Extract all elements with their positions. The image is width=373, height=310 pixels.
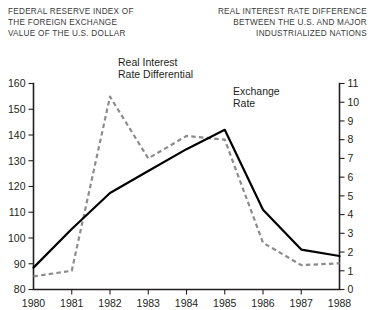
- x-axis-tick-label: 1986: [251, 297, 275, 309]
- x-axis-tick-label: 1981: [60, 297, 84, 309]
- x-axis-tick-label: 1983: [137, 297, 161, 309]
- y-axis-left-tick-label: 140: [8, 129, 26, 141]
- y-axis-right-tick-label: 11: [348, 77, 359, 89]
- y-axis-left-tick-label: 90: [14, 258, 26, 270]
- x-axis-ticks: 198019811982198319841985198619871988: [22, 290, 352, 309]
- y-axis-left-tick-label: 160: [8, 77, 26, 89]
- y-axis-right-ticks: 01234567891011: [340, 77, 360, 295]
- annotation-exchange-line-2: Rate: [233, 97, 255, 109]
- x-axis-tick-label: 1985: [213, 297, 237, 309]
- y-axis-right-tick-label: 9: [348, 115, 354, 127]
- x-axis-tick-label: 1984: [175, 297, 199, 309]
- y-axis-left-tick-label: 110: [9, 206, 26, 218]
- y-axis-left-tick-label: 120: [8, 180, 26, 192]
- y-axis-right-tick-label: 7: [348, 152, 354, 164]
- x-axis-tick-label: 1987: [290, 297, 314, 309]
- y-axis-left-tick-label: 100: [8, 232, 26, 244]
- y-axis-right-tick-label: 0: [348, 283, 354, 295]
- y-axis-right-tick-label: 6: [348, 171, 354, 183]
- x-axis-tick-label: 1982: [98, 297, 122, 309]
- y-axis-right-tick-label: 8: [348, 133, 354, 145]
- annotation-differential-line-2: Rate Differential: [118, 68, 193, 80]
- annotation-exchange-line-1: Exchange: [233, 85, 280, 97]
- y-axis-right-tick-label: 3: [348, 227, 354, 239]
- y-axis-right-tick-label: 10: [348, 96, 360, 108]
- chart-plot-area: 8090100110120130140150160 01234567891011…: [0, 0, 373, 310]
- y-axis-right-tick-label: 1: [348, 265, 354, 277]
- chart-figure: FEDERAL RESERVE INDEX OF THE FOREIGN EXC…: [0, 0, 373, 310]
- y-axis-right-tick-label: 5: [348, 190, 354, 202]
- axis-frame: [34, 84, 340, 290]
- series-line-exchange-rate: [34, 130, 340, 268]
- annotation-differential-line-1: Real Interest: [118, 56, 178, 68]
- y-axis-left-ticks: 8090100110120130140150160: [8, 77, 34, 295]
- y-axis-left-tick-label: 80: [14, 283, 26, 295]
- annotation-real-interest-rate-differential: Real Interest Rate Differential: [118, 56, 193, 80]
- annotation-exchange-rate: Exchange Rate: [233, 85, 280, 109]
- y-axis-right-tick-label: 2: [348, 246, 354, 258]
- y-axis-left-tick-label: 150: [8, 103, 26, 115]
- series-line-real-interest-rate-differential: [34, 97, 340, 277]
- x-axis-tick-label: 1988: [328, 297, 352, 309]
- x-axis-tick-label: 1980: [22, 297, 46, 309]
- y-axis-left-tick-label: 130: [8, 155, 26, 167]
- y-axis-right-tick-label: 4: [348, 208, 354, 220]
